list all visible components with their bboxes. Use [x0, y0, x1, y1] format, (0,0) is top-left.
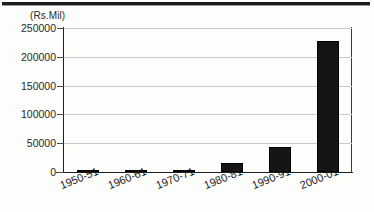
gridline: [64, 86, 352, 87]
top-rule-shadow: [2, 5, 370, 6]
y-axis-tick-mark: [57, 86, 64, 87]
y-axis-tick-label: 250000: [21, 22, 56, 34]
gridline: [64, 114, 352, 115]
y-axis-tick-label: 50000: [27, 137, 56, 149]
y-axis-tick-label: 200000: [21, 51, 56, 63]
y-axis-unit-label: (Rs.Mil): [30, 10, 65, 21]
bar-chart-figure: (Rs.Mil) 050000100000150000200000250000 …: [0, 0, 374, 212]
gridline: [64, 57, 352, 58]
gridline: [64, 143, 352, 144]
y-axis-tick-mark: [57, 57, 64, 58]
x-axis-tick-labels: 1950-511960-611970-711980-811990-912000-…: [0, 172, 374, 212]
y-axis-tick-label: 100000: [21, 108, 56, 120]
gridline: [64, 28, 352, 29]
y-axis-tick-mark: [57, 28, 64, 29]
plot-area: [64, 28, 352, 172]
y-axis-tick-mark: [57, 143, 64, 144]
bar[interactable]: [317, 41, 339, 172]
y-axis-tick-mark: [57, 114, 64, 115]
y-axis-tick-labels: 050000100000150000200000250000: [0, 28, 56, 172]
y-axis-tick-label: 150000: [21, 80, 56, 92]
